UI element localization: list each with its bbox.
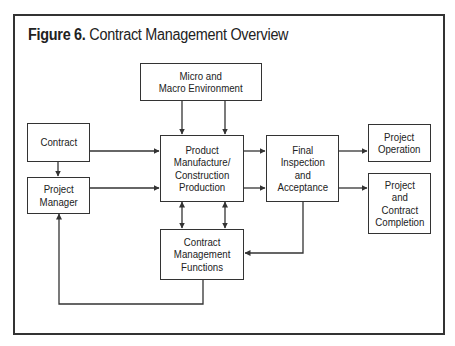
node-management-functions: Contract Management Functions: [160, 229, 244, 280]
node-management-functions-label: Contract Management Functions: [174, 236, 231, 274]
node-environment-label: Micro and Macro Environment: [159, 70, 243, 95]
node-inspection: Final Inspection and Acceptance: [266, 135, 339, 202]
node-contract: Contract: [27, 123, 90, 162]
node-completion-label: Project and Contract Completion: [375, 179, 424, 229]
node-inspection-label: Final Inspection and Acceptance: [277, 144, 328, 194]
node-project-operation: Project Operation: [368, 124, 431, 162]
arrow-insp-mgmt: [245, 201, 303, 253]
node-project-manager: Project Manager: [27, 177, 90, 214]
node-environment: Micro and Macro Environment: [140, 63, 262, 101]
node-production: Product Manufacture/ Construction Produc…: [160, 135, 244, 202]
node-project-manager-label: Project Manager: [39, 183, 77, 208]
node-project-operation-label: Project Operation: [378, 131, 421, 156]
node-completion: Project and Contract Completion: [368, 173, 431, 234]
node-contract-label: Contract: [40, 136, 77, 149]
node-production-label: Product Manufacture/ Construction Produc…: [174, 144, 230, 194]
